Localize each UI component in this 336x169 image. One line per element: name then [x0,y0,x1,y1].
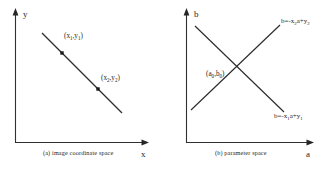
point-marker-2 [96,87,99,90]
panel-image-coordinate-space: y x (x1,y1) (x2,y2) (a) image coordinate… [0,0,168,169]
equation-upper-head: b=-x [281,17,295,25]
equation-line-lower [195,26,284,112]
a-axis-label: a [306,149,310,159]
point-label-2: (x2,y2) [101,74,120,83]
panel-parameter-space: b a (a0,b0) b=-x2a+y2 b=-x1a+y1 (b) para… [168,0,336,169]
panel-caption-a: (a) image coordinate space [43,149,113,157]
hough-transform-figure: y x (x1,y1) (x2,y2) (a) image coordinate… [0,0,336,169]
equation-upper-mid: a+y [297,17,308,25]
collinear-points-line [42,33,122,113]
a-axis-arrowhead [307,140,315,146]
equation-lower-mid: a+y [290,112,301,120]
b-axis-label: b [194,9,199,19]
panel-caption-b: (b) parameter space [215,149,267,157]
equation-lower-head: b=-x [274,112,288,120]
intersection-end: ) [222,70,225,78]
point-label-2-end: ) [117,74,120,82]
point-label-1: (x1,y1) [64,32,83,41]
intersection-point-label: (a0,b0) [206,70,225,79]
point-marker-1 [60,51,63,54]
equation-line-upper [191,25,280,110]
x-axis-label: x [141,149,146,159]
point-label-1-end: ) [80,32,83,40]
equation-upper-sub2: 2 [307,21,310,26]
b-axis-arrowhead [184,8,190,16]
equation-label-lower: b=-x1a+y1 [274,112,303,121]
equation-lower-sub2: 1 [300,116,303,121]
equation-label-upper: b=-x2a+y2 [281,17,310,26]
y-axis-label: y [23,9,28,19]
x-axis-arrowhead [142,140,150,146]
y-axis-arrowhead [13,8,19,16]
